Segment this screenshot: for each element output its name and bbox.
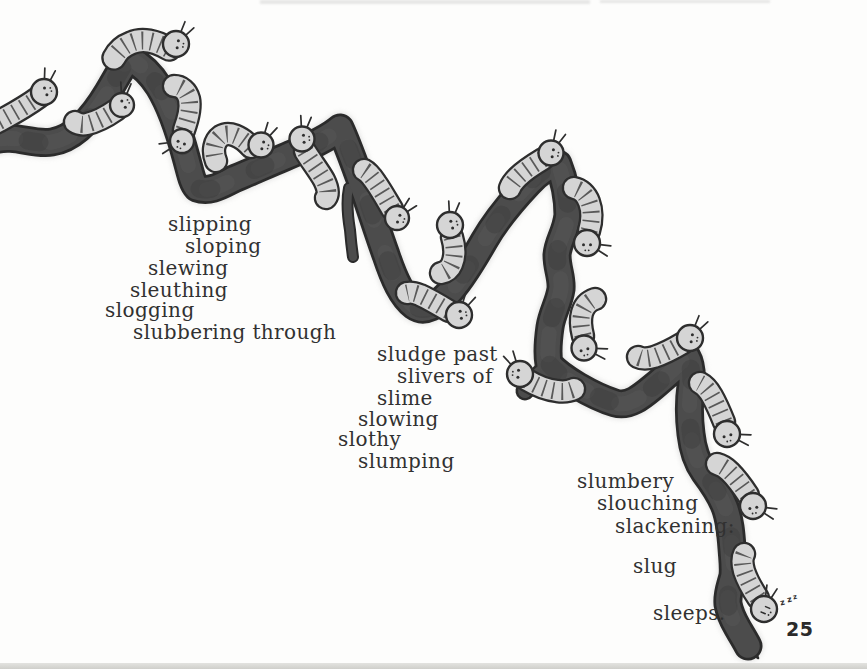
eye-icon [460,317,463,320]
slug-head [110,93,134,117]
eye-icon [124,106,127,109]
slug-head [437,212,463,238]
eye-icon [396,220,399,223]
slug-illustration [700,383,751,447]
poem-line: slipping [168,214,252,234]
slug-head [740,493,766,519]
poem-line: slubbering through [133,322,336,342]
snore-text: zzz [780,584,793,603]
eye-icon [723,435,726,438]
scan-artifact [260,0,590,4]
eye-icon [755,506,758,509]
poem-line: slumbery [577,471,674,491]
slug-head [751,596,777,622]
scan-artifact [0,663,867,669]
poem-line: sloping [185,236,261,256]
mouth-dot-icon [309,139,311,141]
slug-illustration [114,22,194,58]
slug-head [31,79,57,105]
mouth-dot-icon [127,99,129,101]
poem-line: slogging [105,300,195,320]
poem-line: slewing [148,258,229,278]
slug-head [170,129,194,153]
mouth-dot-icon [755,512,757,514]
eye-icon [516,376,519,379]
slug-head [163,31,189,57]
slug-illustration [0,68,57,126]
eye-icon [582,243,585,246]
mouth-dot-icon [588,249,590,251]
mouth-dot-icon [128,102,130,104]
eye-icon [177,39,180,42]
mouth-dot-icon [180,147,182,149]
poem-line: slowing [358,409,439,429]
poem-line: sleuthing [130,280,228,300]
slug-head [539,141,564,166]
eye-icon [691,333,694,336]
sleeping-slug-illustration [743,554,778,622]
eye-icon [729,433,732,436]
eye-icon [45,93,48,96]
eye-icon [262,141,265,144]
mouth-dot-icon [267,148,269,150]
mouth-dot-icon [557,155,559,157]
eye-icon [552,148,555,151]
eye-icon [120,100,123,103]
eye-icon [690,340,693,343]
eye-icon [449,220,452,223]
poem-line: slivers of [397,366,493,386]
slug-illustration [572,299,608,361]
slug-head [677,325,703,351]
branch-and-slugs-illustration [0,0,867,669]
mouth-dot-icon [512,371,514,373]
mouth-dot-icon [465,311,467,313]
slug-head [290,127,315,152]
mouth-dot-icon [176,146,178,148]
mouth-dot-icon [404,218,406,220]
eye-icon [302,134,305,137]
eye-icon [589,243,592,246]
eye-icon [177,140,180,143]
poem-line: slothy [338,429,401,449]
eye-icon [451,226,454,229]
mouth-dot-icon [456,221,458,223]
eye-icon [748,507,751,510]
mouth-dot-icon [583,355,585,357]
eye-icon [586,347,589,350]
eye-icon [551,155,554,158]
eye-icon [303,141,306,144]
eye-icon [517,369,520,372]
mouth-dot-icon [183,43,185,45]
mouth-dot-icon [308,136,310,138]
mouth-dot-icon [49,87,51,89]
mouth-dot-icon [697,337,699,339]
mouth-dot-icon [752,513,754,515]
eye-icon [43,87,46,90]
mouth-dot-icon [770,611,772,613]
mouth-dot-icon [51,90,53,92]
mouth-dot-icon [730,440,732,442]
slug-head [446,302,472,328]
slug-illustration [214,123,277,161]
poem-line: slime [377,388,433,408]
poem-line: slumping [358,451,455,471]
eye-icon [580,349,583,352]
slug-head [572,336,597,361]
book-page: slipping sloping slewing sleuthing slogg… [0,0,867,669]
slug-illustration [574,188,611,256]
poem-line: sleeps. [653,603,726,623]
slug-head [507,361,533,387]
poem-line: slouching [597,493,698,513]
mouth-dot-icon [768,614,770,616]
slug-head [714,421,740,447]
poem-line: slug [633,556,677,576]
eye-icon [459,310,462,313]
mouth-dot-icon [558,152,560,154]
mouth-dot-icon [587,354,589,356]
poem-line: sludge past [377,344,498,364]
mouth-dot-icon [726,441,728,443]
mouth-dot-icon [584,249,586,251]
slug-head [249,133,274,158]
page-number: 25 [786,618,813,640]
mouth-dot-icon [512,374,514,376]
